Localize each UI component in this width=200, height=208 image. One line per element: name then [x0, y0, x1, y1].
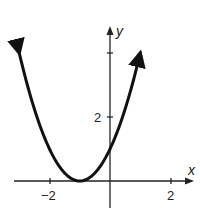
x-axis-arrow-icon: [185, 178, 194, 185]
parabola-graph: x y −2 2 2: [0, 0, 200, 208]
y-tick-label-2: 2: [94, 110, 101, 125]
y-axis-label: y: [115, 23, 124, 39]
x-axis-label: x: [187, 162, 196, 178]
parabola-curve: [19, 53, 140, 181]
x-tick-label-2: 2: [167, 188, 174, 203]
y-axis-arrow-icon: [107, 26, 114, 35]
x-tick-label-neg2: −2: [41, 188, 56, 203]
